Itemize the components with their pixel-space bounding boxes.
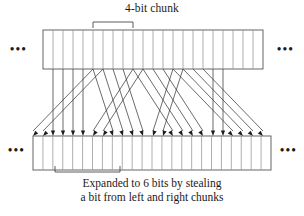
- expansion-arrow-head: [198, 130, 203, 136]
- expansion-arrow-line: [163, 69, 203, 131]
- expansion-arrow-head: [258, 131, 263, 136]
- expansion-arrow-head: [129, 130, 133, 136]
- expansion-arrow-line: [103, 69, 123, 131]
- expansion-arrow-head: [33, 131, 38, 136]
- des-expansion-diagram: 4-bit chunk ••• ••• ••• ••• Expanded to …: [0, 0, 304, 216]
- expansion-arrow-head: [168, 130, 173, 136]
- expansion-arrow-head: [51, 131, 55, 136]
- expansion-arrow-line: [203, 69, 263, 131]
- expansion-arrow-line: [133, 69, 173, 131]
- expansion-arrow-head: [93, 130, 98, 136]
- expansion-arrow-line: [123, 69, 143, 131]
- input-bit-row: [43, 30, 263, 69]
- expansion-arrows: [33, 69, 263, 136]
- caption-line-1: Expanded to 6 bits by stealing: [0, 177, 304, 189]
- expansion-arrow-head: [61, 131, 65, 136]
- expansion-arrow-head: [211, 131, 215, 136]
- expansion-arrow-head: [119, 130, 123, 136]
- caption-line-2: a bit from left and right chunks: [0, 191, 304, 203]
- expansion-arrow-head: [71, 131, 75, 136]
- expansion-arrow-head: [238, 131, 243, 136]
- expansion-arrow-head: [163, 130, 167, 136]
- expansion-arrow-head: [228, 131, 233, 136]
- expansion-arrow-head: [43, 131, 48, 136]
- expansion-arrow-line: [93, 69, 113, 131]
- top-bracket: [93, 22, 133, 28]
- expansion-arrow-line: [113, 69, 133, 131]
- expansion-arrow-head: [188, 130, 193, 136]
- expanded-bit-row: [33, 136, 271, 170]
- expansion-arrow-head: [153, 130, 157, 136]
- expansion-arrow-head: [248, 131, 253, 136]
- expansion-arrow-head: [103, 130, 108, 136]
- top-bracket-path: [93, 22, 133, 28]
- expansion-arrow-line: [153, 69, 193, 131]
- expansion-arrow-line: [173, 69, 233, 131]
- expansion-arrow-head: [109, 130, 113, 136]
- expansion-arrow-head: [139, 130, 143, 136]
- expansion-arrow-head: [178, 130, 183, 136]
- expansion-arrow-head: [221, 131, 225, 136]
- expansion-arrow-head: [81, 131, 85, 136]
- expansion-arrow-line: [143, 69, 183, 131]
